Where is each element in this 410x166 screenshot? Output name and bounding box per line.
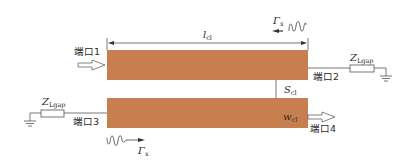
bottom-wave-arrow-icon: [138, 138, 145, 142]
port1-arrow-icon: [78, 60, 105, 70]
wave-bottom-subscript: x: [145, 150, 149, 158]
impedance-left-label: ZLgap: [42, 97, 65, 110]
impedance-left-symbol: Z: [42, 96, 49, 107]
impedance-right-symbol: Z: [350, 52, 357, 63]
port2-label: 端口2: [313, 72, 339, 82]
spacing-label: Scl: [284, 85, 297, 98]
width-subscript: cl: [292, 116, 298, 124]
width-label: wcl: [283, 112, 297, 125]
spacing-subscript: cl: [291, 89, 297, 97]
coupled-line-diagram: [0, 0, 410, 166]
wave-top-symbol: Γ: [273, 15, 280, 26]
bottom-strip: [107, 98, 308, 128]
impedance-right-subscript: Lgap: [357, 57, 374, 65]
wave-bottom-symbol: Γ: [138, 145, 145, 156]
port1-label: 端口1: [74, 47, 100, 57]
wave-top-label: Γx: [273, 16, 284, 29]
spacing-symbol: S: [284, 84, 291, 95]
bottom-wave-icon: [107, 136, 138, 146]
port3-label: 端口3: [73, 117, 99, 127]
top-wave-arrow-icon: [272, 29, 279, 33]
top-strip: [107, 50, 308, 80]
width-symbol: w: [283, 111, 292, 122]
top-wave-icon: [289, 22, 306, 32]
impedance-left-subscript: Lgap: [49, 101, 66, 109]
length-label: lcl: [203, 30, 212, 43]
impedance-right-label: ZLgap: [350, 53, 373, 66]
port4-label: 端口4: [310, 124, 336, 134]
wave-top-subscript: x: [280, 20, 284, 28]
length-subscript: cl: [206, 34, 212, 42]
port4-arrow-icon: [308, 112, 335, 122]
wave-bottom-label: Γx: [138, 146, 149, 159]
